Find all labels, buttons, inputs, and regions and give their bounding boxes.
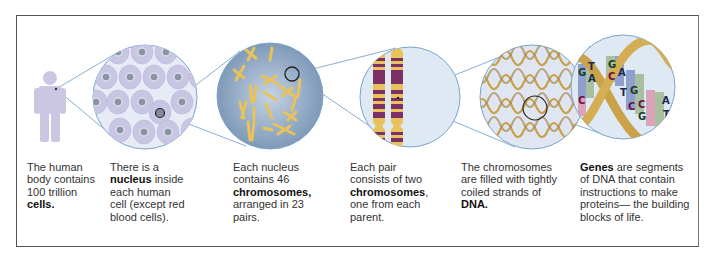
svg-text:T: T: [620, 87, 627, 98]
caption-chromosome-pair: Each pair consists of two chromosomes, o…: [350, 161, 436, 223]
caption-text: The chromosomes are filled with tightly …: [461, 161, 557, 198]
caption-dna: The chromosomes are filled with tightly …: [461, 161, 561, 211]
dna-strands-icon: [476, 45, 584, 149]
caption-text: The human body contains 100 trillion: [27, 161, 95, 198]
svg-text:G: G: [608, 59, 616, 70]
cells-icon: [85, 40, 211, 149]
caption-bold-term: cells.: [27, 198, 55, 210]
caption-bold-term: chromosomes,: [233, 186, 311, 198]
human-figure-icon: [34, 71, 66, 142]
svg-text:G: G: [638, 111, 646, 122]
svg-text:G: G: [578, 67, 586, 78]
caption-bold-term: chromosomes: [350, 186, 425, 198]
caption-text: Each nucleus contains 46: [233, 161, 299, 185]
svg-text:A: A: [588, 73, 596, 84]
nucleus-chromosomes-icon: [217, 43, 323, 149]
svg-text:C: C: [628, 101, 635, 112]
svg-text:C: C: [638, 99, 645, 110]
svg-text:A: A: [618, 67, 626, 78]
caption-text: Each pair consists of two: [350, 161, 422, 185]
caption-cell: There is a nucleus inside each human cel…: [110, 161, 190, 223]
caption-bold-term: DNA.: [461, 198, 488, 210]
caption-text: There is a: [110, 161, 159, 173]
gene-helix-icon: T A G C G C A T G C C G A T: [565, 35, 680, 142]
svg-text:T: T: [663, 109, 670, 120]
svg-text:G: G: [630, 85, 638, 96]
caption-bold-term: Genes: [580, 161, 614, 173]
caption-body: The human body contains 100 trillion cel…: [27, 161, 97, 211]
svg-text:A: A: [662, 95, 670, 106]
caption-bold-term: nucleus: [110, 173, 152, 185]
svg-text:C: C: [578, 95, 585, 106]
caption-genes: Genes are segments of DNA that contain i…: [580, 161, 692, 223]
caption-text: arranged in 23 pairs.: [233, 198, 304, 222]
svg-text:C: C: [608, 71, 615, 82]
svg-text:T: T: [588, 61, 595, 72]
caption-nucleus: Each nucleus contains 46 chromosomes, ar…: [233, 161, 309, 223]
chromosome-pair-icon: [360, 47, 460, 148]
